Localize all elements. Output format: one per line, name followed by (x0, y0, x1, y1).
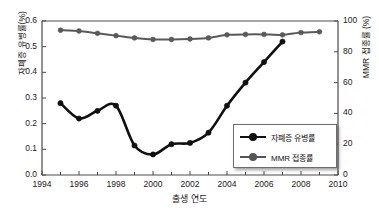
data-point (280, 32, 285, 37)
data-point (280, 39, 285, 44)
data-point (132, 36, 137, 41)
chart-legend: 자폐증 유병률 MMR 접종률 (233, 124, 337, 168)
data-point (150, 152, 155, 157)
data-point (262, 32, 267, 37)
legend-item-autism: 자폐증 유병률 (240, 131, 315, 143)
data-point (261, 59, 266, 64)
data-point (243, 32, 248, 37)
data-point (299, 30, 304, 35)
data-point (224, 103, 229, 108)
data-point (206, 130, 211, 135)
legend-marker-autism (240, 132, 266, 142)
data-point (132, 143, 137, 148)
data-point (95, 108, 100, 113)
data-point (243, 80, 248, 85)
data-point (114, 33, 119, 38)
data-point (169, 37, 174, 42)
plot-area (0, 0, 379, 212)
data-point (317, 29, 322, 34)
data-point (187, 140, 192, 145)
chart-figure: 자폐증 유병률(%) MMR 접종률 (%) 출생 연도 0.00.10.20.… (0, 0, 379, 212)
legend-item-mmr: MMR 접종률 (240, 151, 313, 163)
legend-label-mmr: MMR 접종률 (271, 152, 313, 163)
legend-marker-mmr (240, 152, 266, 162)
data-point (58, 28, 63, 33)
data-point (188, 37, 193, 42)
data-point (58, 101, 63, 106)
data-point (206, 36, 211, 41)
data-point (95, 31, 100, 36)
data-point (77, 29, 82, 34)
data-point (225, 32, 230, 37)
legend-label-autism: 자폐증 유병률 (271, 132, 315, 143)
data-point (169, 142, 174, 147)
data-point (151, 37, 156, 42)
data-point (113, 103, 118, 108)
data-point (76, 116, 81, 121)
